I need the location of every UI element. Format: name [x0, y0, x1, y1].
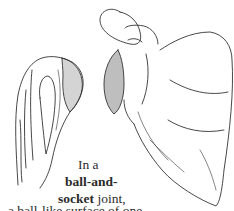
term-ball-and: ball-and- [65, 174, 118, 189]
humerus-drawing [16, 57, 83, 188]
scapula-drawing [100, 9, 233, 206]
caption-line-1: In a [78, 156, 99, 173]
caption-line-4: a ball-like surface of one [8, 202, 142, 211]
caption-line-2: ball-and- [65, 173, 118, 190]
